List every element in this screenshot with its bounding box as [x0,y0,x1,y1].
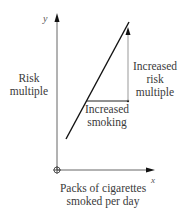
increased-risk-label-line-1: Increased [129,60,181,73]
y-axis-letter: y [43,13,47,24]
increased-smoking-label: Increased smoking [82,103,132,129]
x-axis-label-line-1: Packs of cigarettes [58,182,148,195]
x-axis-label-line-2: smoked per day [58,195,148,208]
risk-smoking-diagram: y x Risk multiple Increased risk multipl… [0,0,182,217]
y-axis-label: Risk multiple [4,72,54,98]
x-axis-arrow-icon [146,168,155,173]
origin-marker-icon [53,166,61,174]
y-axis-label-line-1: Risk [4,72,54,85]
increased-risk-label-line-3: multiple [129,86,181,99]
y-axis-label-line-2: multiple [4,85,54,98]
increased-risk-label: Increased risk multiple [129,60,181,99]
y-axis-arrow-icon [55,13,60,22]
x-axis-letter: x [151,175,155,185]
x-axis-label: Packs of cigarettes smoked per day [58,182,148,208]
increased-smoking-label-line-1: Increased [82,103,132,116]
increased-risk-label-line-2: risk [129,73,181,86]
increased-smoking-label-line-2: smoking [82,116,132,129]
